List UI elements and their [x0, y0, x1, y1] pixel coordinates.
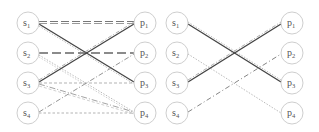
node-p2: p2: [134, 42, 156, 64]
edge-s2-p4: [39, 55, 134, 112]
node-r-s4: s4: [166, 102, 188, 124]
edge-s3-p4-b: [39, 86, 134, 114]
node-r-p3: p3: [281, 72, 303, 94]
right-source-nodes: s1 s2 s3 s4: [166, 12, 188, 124]
node-s2: s2: [17, 42, 39, 64]
node-s1: s1: [17, 12, 39, 34]
left-source-nodes: s1 s2 s3 s4: [17, 12, 39, 124]
bipartite-matching-figure: s1 s2 s3 s4 p1 p2 p3 p4 s1 s2 s3 s4 p1 p…: [0, 0, 319, 132]
edge-s3-p4: [39, 84, 134, 112]
node-r-s3: s3: [166, 72, 188, 94]
left-target-nodes: p1 p2 p3 p4: [134, 12, 156, 124]
right-diagram-edges: [188, 22, 281, 113]
node-r-s2: s2: [166, 42, 188, 64]
node-s3: s3: [17, 72, 39, 94]
edge-r-s2-p4: [188, 54, 281, 113]
node-p3: p3: [134, 72, 156, 94]
node-p4: p4: [134, 102, 156, 124]
node-p1: p1: [134, 12, 156, 34]
right-target-nodes: p1 p2 p3 p4: [281, 12, 303, 124]
edge-s1-p3-dotted: [39, 26, 134, 84]
node-r-p1: p1: [281, 12, 303, 34]
node-r-p2: p2: [281, 42, 303, 64]
node-s4: s4: [17, 102, 39, 124]
edge-s3-p1-dashdot: [39, 22, 134, 80]
left-diagram-edges: [39, 22, 134, 115]
node-r-p4: p4: [281, 102, 303, 124]
node-r-s1: s1: [166, 12, 188, 34]
edge-s2-p4-b: [39, 57, 134, 114]
